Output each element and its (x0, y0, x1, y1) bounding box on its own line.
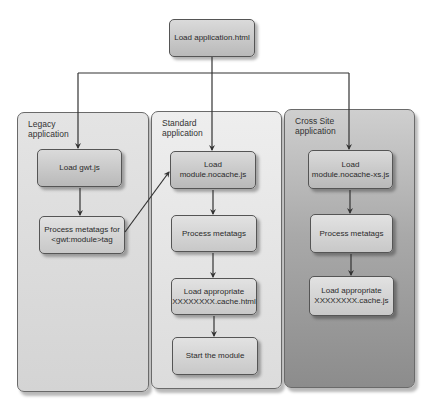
panel-title-line: application (162, 128, 203, 138)
legacy-step-process-metatags: Process metatags for <gwt:module>tag (39, 216, 125, 254)
node-label: Load application.html (174, 33, 250, 43)
cross-site-step-load-module-nocache-xs-js: Load module.nocache-xs.js (308, 150, 393, 189)
node-label: Process metatags (182, 229, 246, 239)
panel-title-line: application (28, 129, 69, 139)
panel-title-line: Standard (162, 118, 203, 128)
node-label: Process metatags for (44, 225, 120, 235)
standard-step-load-cache-html: Load appropriate XXXXXXXX.cache.html (171, 278, 257, 315)
legacy-step-load-gwt-js: Load gwt.js (37, 149, 122, 187)
node-label: Load gwt.js (59, 163, 99, 173)
root-node-load-application-html: Load application.html (169, 19, 255, 57)
node-label: Load appropriate (314, 286, 388, 296)
panel-title-line: application (295, 126, 336, 136)
cross-site-step-load-cache-js: Load appropriate XXXXXXXX.cache.js (309, 276, 394, 316)
node-label: Load (180, 160, 247, 170)
node-label: module.nocache-xs.js (312, 170, 389, 180)
cross-site-step-process-metatags: Process metatags (310, 214, 393, 253)
node-label: Process metatags (319, 229, 383, 239)
standard-panel-title: Standard application (162, 118, 203, 138)
node-label: Load (312, 160, 389, 170)
panel-title-line: Cross Site (295, 116, 336, 126)
node-label: XXXXXXXX.cache.html (172, 297, 256, 307)
cross-site-panel-title: Cross Site application (295, 116, 336, 136)
standard-step-load-module-nocache-js: Load module.nocache.js (170, 151, 256, 189)
panel-title-line: Legacy (28, 119, 69, 129)
legacy-panel-title: Legacy application (28, 119, 69, 139)
standard-step-process-metatags: Process metatags (171, 215, 257, 252)
node-label: module.nocache.js (180, 170, 247, 180)
node-label: <gwt:module>tag (44, 235, 120, 245)
node-label: Start the module (186, 351, 245, 361)
node-label: XXXXXXXX.cache.js (314, 296, 388, 306)
node-label: Load appropriate (172, 287, 256, 297)
standard-step-start-module: Start the module (172, 337, 258, 375)
